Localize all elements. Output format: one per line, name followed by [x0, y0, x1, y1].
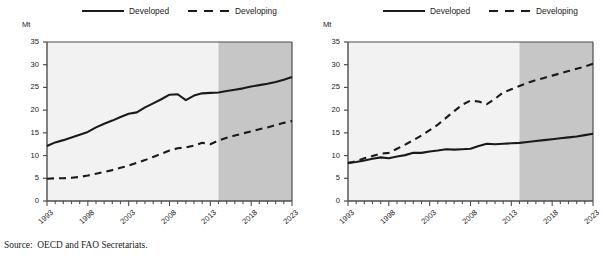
y-tick-label: 20	[314, 105, 340, 114]
figure-root: Developed Developing Mt 0510152025303519…	[0, 0, 603, 260]
chart-panel-left: Developed Developing Mt 0510152025303519…	[0, 0, 301, 236]
y-tick-label: 0	[314, 196, 340, 205]
y-tick-label: 25	[13, 82, 39, 91]
y-tick-label: 30	[13, 60, 39, 69]
plot-area-left: 0510152025303519931998200320082013201820…	[0, 0, 301, 236]
source-note: Source: OECD and FAO Secretariats.	[4, 240, 148, 250]
plot-area-right: 0510152025303519931998200320082013201820…	[301, 0, 602, 236]
chart-panel-right: Developed Developing Mt 0510152025303519…	[301, 0, 602, 236]
y-tick-label: 20	[13, 105, 39, 114]
y-tick-label: 10	[13, 151, 39, 160]
y-tick-label: 35	[13, 37, 39, 46]
y-tick-label: 15	[314, 128, 340, 137]
y-tick-label: 30	[314, 60, 340, 69]
y-tick-label: 5	[314, 173, 340, 182]
panel-container: Developed Developing Mt 0510152025303519…	[0, 0, 603, 236]
projection-shade	[520, 42, 594, 201]
y-tick-label: 35	[314, 37, 340, 46]
y-tick-label: 10	[314, 151, 340, 160]
y-tick-label: 25	[314, 82, 340, 91]
plot-svg-left	[0, 0, 301, 236]
plot-svg-right	[301, 0, 602, 236]
projection-shade	[219, 42, 293, 201]
y-tick-label: 5	[13, 173, 39, 182]
y-tick-label: 15	[13, 128, 39, 137]
y-tick-label: 0	[13, 196, 39, 205]
